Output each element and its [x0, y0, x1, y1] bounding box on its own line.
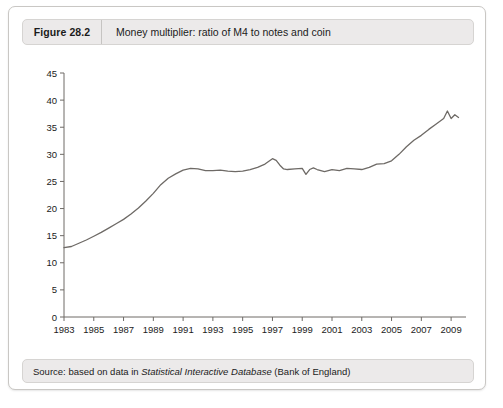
- figure-source-text: Source: based on data in Statistical Int…: [23, 366, 350, 377]
- figure-title: Money multiplier: ratio of M4 to notes a…: [102, 26, 331, 38]
- source-database-name: Statistical Interactive Database: [141, 366, 271, 377]
- svg-text:2005: 2005: [381, 324, 402, 335]
- svg-text:25: 25: [46, 176, 57, 187]
- svg-text:5: 5: [52, 284, 57, 295]
- svg-text:2007: 2007: [411, 324, 432, 335]
- svg-text:1991: 1991: [173, 324, 194, 335]
- chart-plot-area: 0510152025303540451983198519871989199119…: [22, 55, 474, 355]
- svg-text:20: 20: [46, 203, 57, 214]
- svg-text:1993: 1993: [202, 324, 223, 335]
- svg-text:1989: 1989: [143, 324, 164, 335]
- svg-text:2003: 2003: [351, 324, 372, 335]
- svg-text:2001: 2001: [321, 324, 342, 335]
- svg-text:45: 45: [46, 68, 57, 79]
- source-suffix: (Bank of England): [272, 366, 351, 377]
- svg-text:1987: 1987: [113, 324, 134, 335]
- svg-text:35: 35: [46, 122, 57, 133]
- svg-text:30: 30: [46, 149, 57, 160]
- figure-number-label: Figure 28.2: [23, 26, 101, 38]
- figure-source-bar: Source: based on data in Statistical Int…: [22, 359, 474, 383]
- svg-text:1997: 1997: [262, 324, 283, 335]
- svg-text:15: 15: [46, 230, 57, 241]
- source-prefix: Source: based on data in: [33, 366, 141, 377]
- svg-text:1995: 1995: [232, 324, 253, 335]
- svg-text:0: 0: [52, 312, 57, 323]
- svg-text:1983: 1983: [53, 324, 74, 335]
- line-chart: 0510152025303540451983198519871989199119…: [22, 55, 474, 355]
- svg-text:1999: 1999: [292, 324, 313, 335]
- svg-text:2009: 2009: [441, 324, 462, 335]
- svg-text:1985: 1985: [83, 324, 104, 335]
- figure-header: Figure 28.2 Money multiplier: ratio of M…: [22, 19, 474, 45]
- figure-card: Figure 28.2 Money multiplier: ratio of M…: [8, 6, 486, 390]
- svg-text:10: 10: [46, 257, 57, 268]
- svg-text:40: 40: [46, 95, 57, 106]
